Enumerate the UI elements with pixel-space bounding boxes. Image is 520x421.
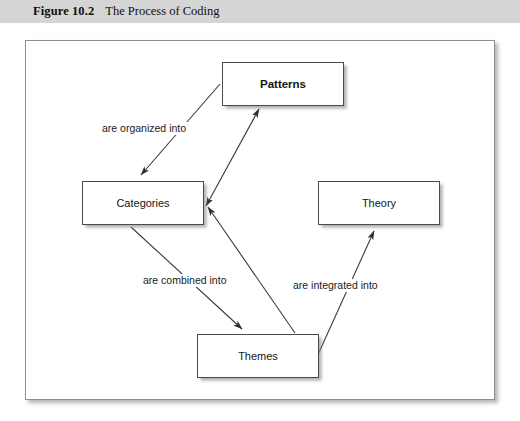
figure-caption: Figure 10.2The Process of Coding (33, 3, 220, 20)
figure-frame: Patterns Categories Theory Themes are or… (25, 40, 495, 400)
edge-categories-to-patterns (206, 109, 259, 206)
edge-label-combined: are combined into (141, 274, 228, 287)
figure-page: Figure 10.2The Process of Coding (0, 0, 520, 421)
edge-themes-to-categories (208, 207, 295, 333)
figure-title: The Process of Coding (105, 4, 219, 18)
node-categories[interactable]: Categories (82, 181, 204, 225)
node-categories-label: Categories (116, 197, 169, 210)
edge-label-integrated: are integrated into (291, 279, 380, 292)
node-theory[interactable]: Theory (318, 181, 440, 225)
edge-label-organized: are organized into (100, 122, 188, 135)
node-patterns-label: Patterns (260, 78, 306, 91)
node-patterns[interactable]: Patterns (222, 62, 344, 106)
edge-themes-to-theory (316, 231, 374, 359)
node-theory-label: Theory (362, 197, 396, 210)
figure-caption-band: Figure 10.2The Process of Coding (0, 0, 520, 23)
figure-number: Figure 10.2 (33, 4, 94, 18)
node-themes-label: Themes (238, 350, 278, 363)
node-themes[interactable]: Themes (197, 334, 319, 378)
